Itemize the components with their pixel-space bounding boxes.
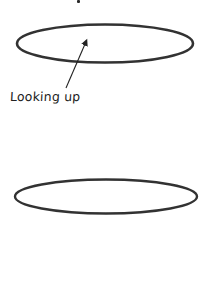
annotation-arrow xyxy=(66,41,86,88)
looking-up-label: Looking up xyxy=(10,89,81,104)
bottom-ellipse xyxy=(15,180,197,214)
cropped-mark xyxy=(77,0,80,3)
top-ellipse xyxy=(17,25,193,63)
diagram-canvas xyxy=(0,0,218,285)
